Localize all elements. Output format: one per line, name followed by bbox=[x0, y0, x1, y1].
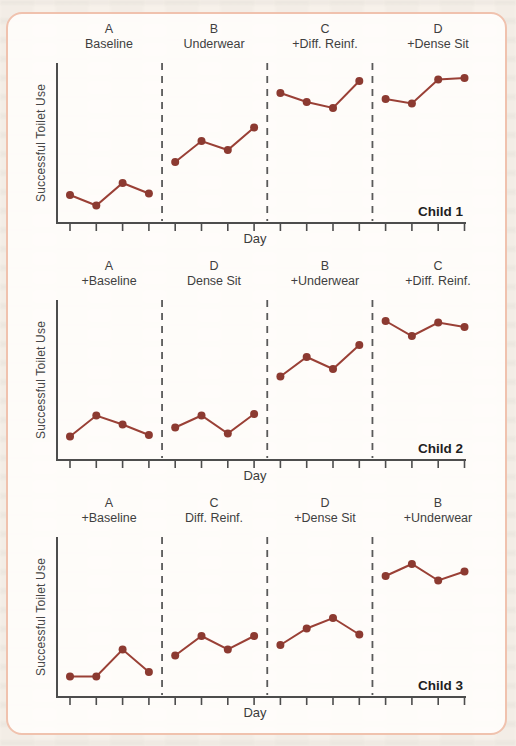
y-axis-label: Successful Toilet Use bbox=[34, 84, 48, 202]
phase-name: +Baseline bbox=[81, 274, 136, 289]
child-label: Child 1 bbox=[418, 204, 463, 219]
phase-name: +Underwear bbox=[404, 511, 472, 526]
phase-name: +Baseline bbox=[81, 511, 136, 526]
phase-label-3: B +Underwear bbox=[291, 259, 359, 289]
child-label: Child 2 bbox=[418, 441, 463, 456]
phase-name: +Underwear bbox=[291, 274, 359, 289]
phase-name: +Diff. Reinf. bbox=[405, 274, 470, 289]
phase-letter: A bbox=[81, 496, 136, 511]
phase-letter: C bbox=[405, 259, 470, 274]
x-axis-label: Day bbox=[243, 468, 266, 483]
phase-letter: C bbox=[292, 22, 357, 37]
phase-letter: C bbox=[185, 496, 243, 511]
phase-name: Underwear bbox=[183, 37, 244, 52]
phase-letter: B bbox=[291, 259, 359, 274]
x-axis-label: Day bbox=[243, 705, 266, 720]
y-axis-label: Successful Toilet Use bbox=[34, 558, 48, 676]
phase-name: +Diff. Reinf. bbox=[292, 37, 357, 52]
phase-letter: D bbox=[187, 259, 241, 274]
phase-letter: B bbox=[183, 22, 244, 37]
phase-label-4: B +Underwear bbox=[404, 496, 472, 526]
phase-label-1: A +Baseline bbox=[81, 496, 136, 526]
line-chart-child-3 bbox=[8, 493, 505, 730]
phase-letter: D bbox=[407, 22, 469, 37]
phase-label-1: A +Baseline bbox=[81, 259, 136, 289]
phase-letter: D bbox=[294, 496, 356, 511]
phase-label-2: D Dense Sit bbox=[187, 259, 241, 289]
x-axis-label: Day bbox=[243, 231, 266, 246]
phase-name: Diff. Reinf. bbox=[185, 511, 243, 526]
line-chart-child-2 bbox=[8, 256, 505, 493]
chart-panel-child-2: A +Baseline D Dense Sit B +Underwear C +… bbox=[8, 256, 505, 493]
phase-letter: B bbox=[404, 496, 472, 511]
phase-label-4: D +Dense Sit bbox=[407, 22, 469, 52]
phase-label-3: D +Dense Sit bbox=[294, 496, 356, 526]
phase-letter: A bbox=[81, 259, 136, 274]
chart-panel-child-3: A +Baseline C Diff. Reinf. D +Dense Sit … bbox=[8, 493, 505, 730]
phase-label-4: C +Diff. Reinf. bbox=[405, 259, 470, 289]
phase-label-2: B Underwear bbox=[183, 22, 244, 52]
chart-panel-child-1: A Baseline B Underwear C +Diff. Reinf. D… bbox=[8, 19, 505, 256]
phase-label-1: A Baseline bbox=[85, 22, 133, 52]
phase-name: Baseline bbox=[85, 37, 133, 52]
figure-card: A Baseline B Underwear C +Diff. Reinf. D… bbox=[6, 12, 507, 735]
phase-label-3: C +Diff. Reinf. bbox=[292, 22, 357, 52]
child-label: Child 3 bbox=[418, 678, 463, 693]
line-chart-child-1 bbox=[8, 19, 505, 256]
phase-letter: A bbox=[85, 22, 133, 37]
phase-name: +Dense Sit bbox=[407, 37, 469, 52]
phase-label-2: C Diff. Reinf. bbox=[185, 496, 243, 526]
y-axis-label: Successful Toilet Use bbox=[34, 321, 48, 439]
phase-name: +Dense Sit bbox=[294, 511, 356, 526]
phase-name: Dense Sit bbox=[187, 274, 241, 289]
